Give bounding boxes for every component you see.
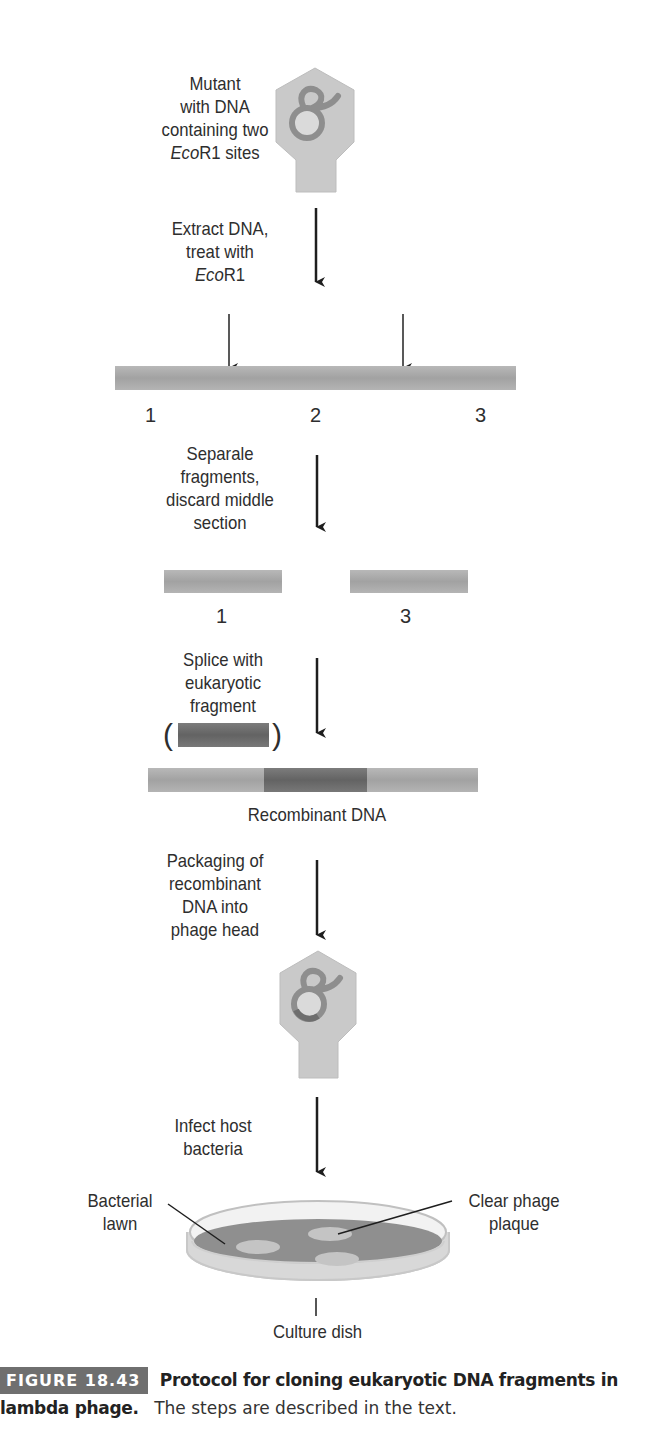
enzyme-italic: Eco	[195, 264, 224, 285]
label-line: treat with	[163, 240, 277, 263]
fragment-3-bar	[350, 570, 468, 593]
step-label-packaging: Packaging of recombinant DNA into phage …	[158, 849, 272, 941]
svg-text:): )	[272, 718, 282, 751]
step-label-separate: Separale fragments, discard middle secti…	[158, 442, 281, 534]
label-line: Packaging of	[158, 849, 272, 872]
label-line: eukaryotic	[166, 671, 280, 694]
figure-number-badge: FIGURE 18.43	[0, 1367, 148, 1394]
label-line: Separale	[158, 442, 281, 465]
figure-caption: FIGURE 18.43 Protocol for cloning eukary…	[0, 1366, 653, 1422]
label-line: plaque	[460, 1212, 567, 1235]
label-line: EcoR1	[163, 263, 277, 286]
phage-plaque	[236, 1240, 280, 1254]
step-label-splice: Splice with eukaryotic fragment	[166, 648, 280, 717]
fragment-1-bar	[164, 570, 282, 593]
label-line: Clear phage	[460, 1189, 567, 1212]
label-line: DNA into	[158, 895, 272, 918]
fragment-number-1: 1	[145, 404, 156, 427]
eukaryotic-fragment: ( )	[163, 718, 282, 751]
label-line: phage head	[158, 918, 272, 941]
culture-dish-label: Culture dish	[258, 1320, 377, 1343]
phage-icon-recombinant	[280, 951, 356, 1078]
label-line: containing two	[158, 118, 272, 141]
step-label-infect: Infect host bacteria	[165, 1114, 262, 1160]
step-label-extract: Extract DNA, treat with EcoR1	[163, 217, 277, 286]
kept-fragment-number-3: 3	[400, 605, 411, 628]
caption-body: The steps are described in the text.	[154, 1398, 457, 1418]
fragment-number-2: 2	[310, 404, 321, 427]
enzyme-suffix: R1 sites	[199, 142, 259, 163]
phage-icon-mutant	[276, 68, 354, 192]
label-line: Extract DNA,	[163, 217, 277, 240]
enzyme-suffix: R1	[224, 264, 245, 285]
clear-phage-plaque-label: Clear phage plaque	[460, 1189, 567, 1235]
label-line: EcoR1 sites	[158, 141, 272, 164]
label-line: recombinant	[158, 872, 272, 895]
phage-plaque	[308, 1227, 352, 1241]
enzyme-italic: Eco	[170, 142, 199, 163]
label-line: section	[158, 511, 281, 534]
label-line: Bacterial	[78, 1189, 162, 1212]
phage-plaque	[315, 1252, 359, 1266]
step-label-mutant: Mutant with DNA containing two EcoR1 sit…	[158, 72, 272, 164]
bacterial-lawn-label: Bacterial lawn	[78, 1189, 162, 1235]
kept-fragment-number-1: 1	[216, 605, 227, 628]
label-line: Splice with	[166, 648, 280, 671]
label-line: with DNA	[158, 95, 272, 118]
label-line: Mutant	[158, 72, 272, 95]
label-line: lawn	[78, 1212, 162, 1235]
recombinant-dna-bar	[148, 768, 478, 792]
label-line: Infect host	[165, 1114, 262, 1137]
svg-text:(: (	[163, 718, 173, 751]
fragment-number-3: 3	[475, 404, 486, 427]
label-line: discard middle	[158, 488, 281, 511]
label-line: fragment	[166, 694, 280, 717]
recombinant-dna-label: Recombinant DNA	[233, 803, 400, 826]
label-line: fragments,	[158, 465, 281, 488]
label-line: bacteria	[165, 1137, 262, 1160]
phage-dna-bar	[115, 366, 516, 390]
